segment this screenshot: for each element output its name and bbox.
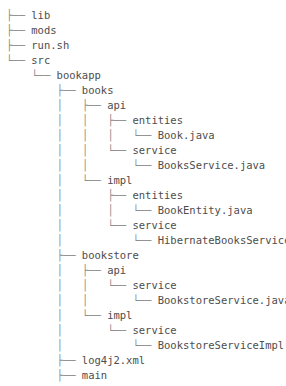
tree-node-label: BooksService.java — [158, 159, 265, 171]
tree-branch-glyph: └── — [6, 54, 31, 66]
tree-node-label: impl — [107, 309, 132, 321]
tree-row[interactable]: │ │ └── service — [6, 143, 286, 158]
tree-node-label: service — [132, 219, 176, 231]
tree-node-label: BookstoreServiceImpl.java — [158, 339, 286, 351]
tree-node-label: books — [82, 84, 114, 96]
tree-node-label: HibernateBooksService.java — [158, 234, 286, 246]
tree-branch-glyph: └── — [6, 69, 57, 81]
tree-branch-glyph: │ └── — [6, 174, 107, 186]
tree-branch-glyph: │ └── — [6, 234, 158, 246]
tree-row[interactable]: ├── books — [6, 83, 286, 98]
tree-node-label: api — [107, 99, 126, 111]
tree-node-label: src — [31, 54, 50, 66]
tree-node-label: BookstoreService.java — [158, 294, 286, 306]
tree-node-label: run.sh — [31, 39, 69, 51]
tree-branch-glyph: │ ├── — [6, 189, 132, 201]
tree-row[interactable]: │ │ ├── entities — [6, 113, 286, 128]
tree-row[interactable]: │ │ └── service — [6, 278, 286, 293]
directory-tree: ├── lib├── mods├── run.sh└── src └── boo… — [0, 0, 286, 383]
tree-row[interactable]: ├── bookstore — [6, 248, 286, 263]
tree-row[interactable]: │ └── service — [6, 323, 286, 338]
tree-node-label: main — [82, 369, 107, 381]
tree-row[interactable]: │ │ └── BookstoreService.java — [6, 293, 286, 308]
tree-branch-glyph: │ ├── — [6, 264, 107, 276]
tree-branch-glyph: │ │ │ └── — [6, 129, 158, 141]
tree-row[interactable]: │ └── impl — [6, 173, 286, 188]
tree-branch-glyph: │ └── — [6, 339, 158, 351]
tree-row[interactable]: │ └── impl — [6, 308, 286, 323]
tree-row[interactable]: │ │ └── BooksService.java — [6, 158, 286, 173]
tree-row[interactable]: │ │ └── BookEntity.java — [6, 203, 286, 218]
tree-branch-glyph: │ └── — [6, 219, 132, 231]
tree-node-label: api — [107, 264, 126, 276]
tree-row[interactable]: └── bookapp — [6, 68, 286, 83]
tree-row[interactable]: ├── lib — [6, 8, 286, 23]
tree-row[interactable]: │ └── service — [6, 218, 286, 233]
tree-node-label: BookEntity.java — [158, 204, 253, 216]
tree-branch-glyph: ├── — [6, 39, 31, 51]
tree-row[interactable]: └── src — [6, 53, 286, 68]
tree-node-label: mods — [31, 24, 56, 36]
tree-branch-glyph: ├── — [6, 369, 82, 381]
tree-branch-glyph: ├── — [6, 354, 82, 366]
tree-branch-glyph: ├── — [6, 24, 31, 36]
tree-node-label: service — [132, 324, 176, 336]
tree-branch-glyph: ├── — [6, 249, 82, 261]
tree-branch-glyph: │ └── — [6, 309, 107, 321]
tree-branch-glyph: │ │ ├── — [6, 114, 132, 126]
tree-branch-glyph: │ │ └── — [6, 159, 158, 171]
tree-branch-glyph: ├── — [6, 9, 31, 21]
tree-row[interactable]: ├── main — [6, 368, 286, 383]
tree-node-label: entities — [132, 189, 183, 201]
tree-node-label: bookapp — [57, 69, 101, 81]
tree-row[interactable]: │ ├── entities — [6, 188, 286, 203]
tree-row[interactable]: │ └── HibernateBooksService.java — [6, 233, 286, 248]
tree-row[interactable]: ├── mods — [6, 23, 286, 38]
tree-row[interactable]: │ │ │ └── Book.java — [6, 128, 286, 143]
tree-branch-glyph: │ │ └── — [6, 204, 158, 216]
tree-branch-glyph: │ │ └── — [6, 294, 158, 306]
tree-node-label: service — [132, 279, 176, 291]
tree-branch-glyph: │ └── — [6, 324, 132, 336]
tree-node-label: bookstore — [82, 249, 139, 261]
tree-node-label: service — [132, 144, 176, 156]
tree-node-label: entities — [132, 114, 183, 126]
tree-branch-glyph: │ │ └── — [6, 279, 132, 291]
tree-row[interactable]: │ ├── api — [6, 98, 286, 113]
tree-branch-glyph: │ │ └── — [6, 144, 132, 156]
tree-node-label: impl — [107, 174, 132, 186]
tree-row[interactable]: ├── log4j2.xml — [6, 353, 286, 368]
tree-row[interactable]: │ ├── api — [6, 263, 286, 278]
tree-branch-glyph: ├── — [6, 84, 82, 96]
tree-row[interactable]: │ └── BookstoreServiceImpl.java — [6, 338, 286, 353]
tree-row[interactable]: ├── run.sh — [6, 38, 286, 53]
tree-branch-glyph: │ ├── — [6, 99, 107, 111]
tree-node-label: log4j2.xml — [82, 354, 145, 366]
tree-node-label: lib — [31, 9, 50, 21]
tree-node-label: Book.java — [158, 129, 215, 141]
